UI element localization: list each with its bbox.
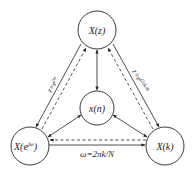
- edge-xn-xk: [113, 115, 147, 137]
- node-xk-label: X(k): [155, 141, 174, 153]
- node-xk: X(k): [146, 127, 184, 165]
- node-xz: X(z): [78, 11, 116, 49]
- edge-xn-xejw: [48, 115, 81, 137]
- node-xn-label: x(n): [88, 103, 106, 115]
- node-xejw: X(ejω): [11, 127, 49, 165]
- node-xn: x(n): [80, 91, 114, 125]
- node-xz-label: X(z): [88, 25, 106, 37]
- edge-xz-to-xejw: [36, 44, 81, 127]
- dft-relationship-diagram: X(z) x(n) X(ejω) X(k) z=ejω z=ej2πk/N ω=…: [0, 0, 193, 175]
- edge-bottom-label: ω=2πk/N: [80, 149, 115, 159]
- edge-xz-to-xk: [113, 44, 159, 127]
- node-xejw-label: X(ejω): [13, 141, 38, 153]
